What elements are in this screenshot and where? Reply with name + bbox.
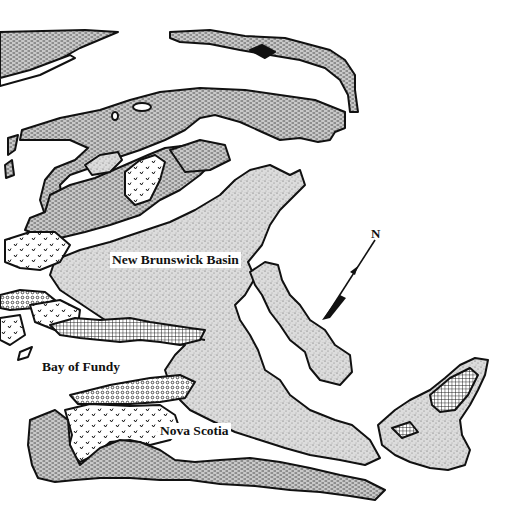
label-nova-scotia: Nova Scotia <box>158 423 231 439</box>
map-shapes <box>0 30 488 500</box>
geologic-map: N New Brunswick Basin Bay of Fundy Nova … <box>0 0 518 523</box>
north-arrow-icon <box>322 240 375 320</box>
label-bay-of-fundy: Bay of Fundy <box>42 360 120 374</box>
label-new-brunswick-basin: New Brunswick Basin <box>110 252 241 268</box>
map-canvas <box>0 0 518 523</box>
north-arrow-glyph: N <box>371 227 380 240</box>
